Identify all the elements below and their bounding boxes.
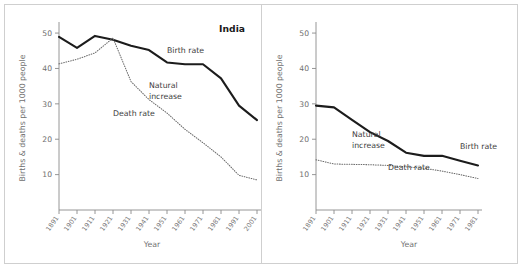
x-axis-title: Year [143, 240, 161, 249]
x-tick-label: 2001 [242, 215, 258, 233]
x-tick-label: 1951 [152, 215, 168, 233]
x-tick-label: 1911 [80, 215, 96, 233]
x-axis-title: Year [400, 240, 418, 249]
x-tick-label: 1891 [301, 215, 317, 233]
series-annotation: Birth rate [167, 46, 204, 55]
chart-panel-second: 1020304050189119011911192119311941195119… [262, 4, 518, 264]
line-chart-india: 1020304050189119011911192119311941195119… [5, 4, 261, 264]
x-tick-label: 1921 [355, 215, 371, 233]
x-tick-label: 1961 [427, 215, 443, 233]
series-annotation: Birth rate [460, 142, 497, 151]
y-tick-label: 10 [299, 170, 309, 179]
y-tick-label: 50 [42, 29, 52, 38]
x-tick-label: 1951 [409, 215, 425, 233]
line-chart-second: 1020304050189119011911192119311941195119… [262, 4, 518, 264]
y-tick-label: 20 [299, 135, 309, 144]
series-annotation: Death rate [113, 109, 155, 118]
figure-container: 1020304050189119011911192119311941195119… [0, 0, 522, 268]
x-tick-label: 1901 [62, 215, 78, 233]
x-tick-label: 1971 [445, 215, 461, 233]
x-tick-label: 1971 [188, 215, 204, 233]
series-annotation: increase [149, 92, 182, 101]
x-tick-label: 1961 [170, 215, 186, 233]
birth-rate-line [59, 36, 257, 120]
series-annotation: Death rate [388, 163, 430, 172]
y-tick-label: 40 [299, 64, 309, 73]
y-tick-label: 30 [299, 100, 309, 109]
chart-title: India [219, 23, 245, 34]
x-tick-label: 1921 [98, 215, 114, 233]
x-tick-label: 1991 [224, 215, 240, 233]
y-tick-label: 10 [42, 170, 52, 179]
y-tick-label: 20 [42, 135, 52, 144]
x-tick-label: 1891 [44, 215, 60, 233]
birth-rate-line [316, 106, 478, 166]
x-tick-label: 1931 [373, 215, 389, 233]
x-tick-label: 1981 [206, 215, 222, 233]
x-tick-label: 1941 [134, 215, 150, 233]
x-tick-label: 1941 [391, 215, 407, 233]
series-annotation: Natural [352, 130, 381, 139]
y-tick-label: 30 [42, 100, 52, 109]
death-rate-line [59, 38, 257, 180]
series-annotation: increase [352, 141, 385, 150]
series-annotation: Natural [149, 81, 178, 90]
x-tick-label: 1981 [463, 215, 479, 233]
x-tick-label: 1911 [337, 215, 353, 233]
y-axis-title: Births & deaths per 1000 people [18, 54, 27, 181]
chart-panel-india: 1020304050189119011911192119311941195119… [5, 4, 261, 264]
y-tick-label: 40 [42, 64, 52, 73]
x-tick-label: 1931 [116, 215, 132, 233]
x-tick-label: 1901 [319, 215, 335, 233]
y-axis-title: Births & deaths per 1000 people [275, 54, 284, 181]
y-tick-label: 50 [299, 29, 309, 38]
